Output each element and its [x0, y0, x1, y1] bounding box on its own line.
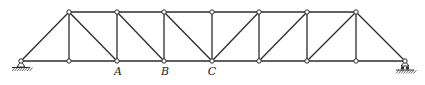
joint [210, 59, 214, 63]
diagonal-member [117, 12, 164, 61]
truss-diagram: A B C [0, 0, 425, 85]
joint [354, 10, 358, 14]
joint [162, 59, 166, 63]
joint [210, 10, 214, 14]
diagonal-member [212, 12, 259, 61]
label-b: B [160, 65, 169, 78]
truss-members [21, 12, 405, 61]
label-c: C [208, 65, 217, 78]
truss-svg: A B C [0, 0, 425, 85]
joint [115, 10, 119, 14]
joint [257, 10, 261, 14]
joint [67, 10, 71, 14]
joint [305, 10, 309, 14]
joint [305, 59, 309, 63]
roller-wheel [406, 66, 409, 69]
joint [115, 59, 119, 63]
joint [403, 59, 407, 63]
roller-wheel [401, 66, 404, 69]
diagonal-member [259, 12, 307, 61]
joint [19, 59, 23, 63]
left-end-diagonal [21, 12, 69, 61]
joint [162, 10, 166, 14]
label-a: A [113, 65, 122, 78]
diagonal-member [307, 12, 356, 61]
truss-joints [19, 10, 407, 63]
diagonal-member [69, 12, 117, 61]
joint [67, 59, 71, 63]
diagonal-member [164, 12, 212, 61]
joint [257, 59, 261, 63]
right-end-diagonal [356, 12, 405, 61]
joint [354, 59, 358, 63]
